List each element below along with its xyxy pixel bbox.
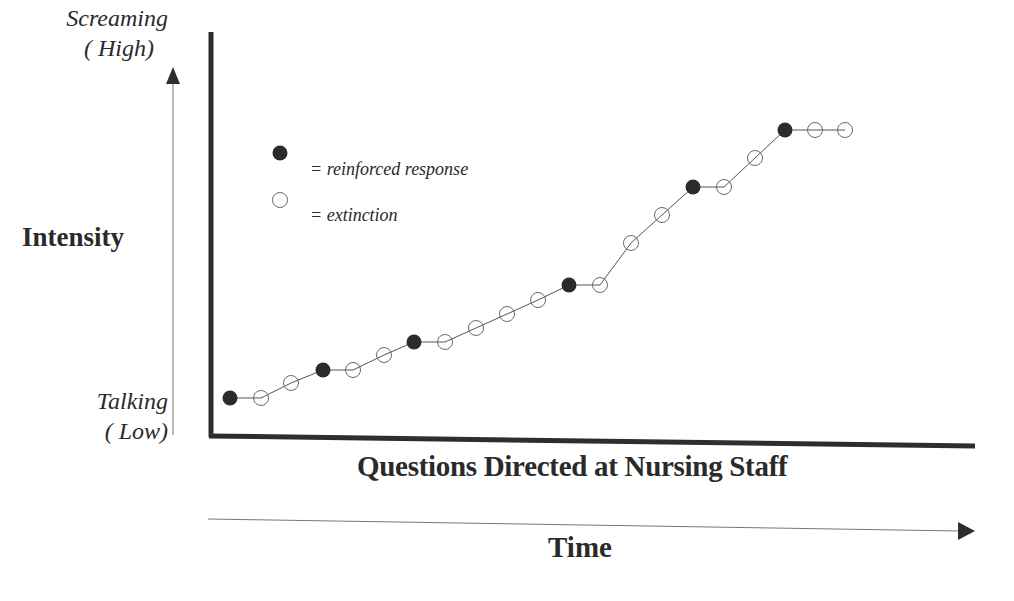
point-reinforced	[562, 278, 577, 293]
data-points	[223, 123, 853, 406]
chart-canvas	[0, 0, 1014, 601]
point-reinforced	[223, 391, 238, 406]
point-reinforced	[316, 363, 331, 378]
time-arrow-line	[208, 519, 960, 531]
legend-filled-circle-icon	[273, 146, 288, 161]
x-axis	[209, 436, 975, 446]
time-arrow-head-icon	[958, 522, 975, 540]
point-reinforced	[778, 123, 793, 138]
data-line	[230, 130, 845, 398]
point-reinforced	[686, 180, 701, 195]
point-reinforced	[407, 335, 422, 350]
intensity-arrow-head-icon	[166, 67, 180, 84]
legend-open-circle-icon	[273, 193, 288, 208]
